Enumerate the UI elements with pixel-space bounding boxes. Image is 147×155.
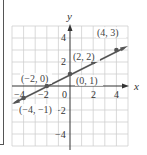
y-tick-label: 4 (61, 32, 66, 43)
y-axis (68, 24, 73, 150)
y-axis-label: y (66, 10, 72, 22)
point-label: (−4, −1) (19, 104, 52, 116)
data-point (45, 84, 50, 89)
x-tick-label: 4 (114, 89, 119, 100)
data-point (114, 48, 119, 53)
data-point (68, 72, 73, 77)
point-label: (0, 1) (76, 75, 98, 87)
line-arrow-right-icon (120, 46, 128, 51)
x-axis-label: x (133, 80, 139, 92)
point-label: (−2, 0) (21, 73, 48, 85)
y-tick-label: −4 (55, 129, 66, 140)
y-axis-arrow-icon (68, 24, 73, 31)
x-tick-label: 0 (62, 89, 67, 100)
coordinate-plane: x y −4 −2 0 2 4 4 2 −2 −4 (−4, −1) (−2, … (0, 0, 147, 155)
data-point (21, 96, 26, 101)
x-tick-label: 2 (91, 89, 96, 100)
point-label: (2, 2) (73, 51, 95, 63)
y-tick-label: 2 (61, 56, 66, 67)
point-label: (4, 3) (97, 27, 119, 39)
